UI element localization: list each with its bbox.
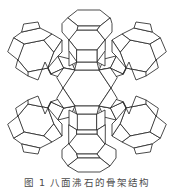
figure-container: 图 1 八面沸石的骨架结构 bbox=[0, 0, 174, 189]
supercage-top-square bbox=[75, 62, 99, 70]
figure-caption: 图 1 八面沸石的骨架结构 bbox=[0, 178, 174, 188]
cage-bottom-center-top-square bbox=[77, 130, 97, 134]
figure-caption-band: 图 1 八面沸石的骨架结构 bbox=[0, 178, 174, 189]
sodalite-cage-bottom-center bbox=[62, 125, 116, 172]
linker-bottom-face-a bbox=[77, 114, 97, 130]
supercage-bottom-square bbox=[75, 106, 99, 114]
cage-top-center-upper-square bbox=[77, 26, 100, 30]
cage-bottom-center-lower-square bbox=[77, 154, 100, 158]
supercage-center bbox=[57, 62, 117, 114]
cage-top-center-bottom-square bbox=[77, 50, 97, 62]
zeolite-framework-diagram bbox=[0, 0, 174, 174]
